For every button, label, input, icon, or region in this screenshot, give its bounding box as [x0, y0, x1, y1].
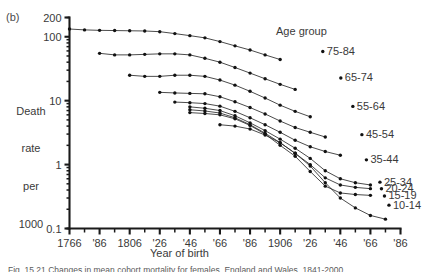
data-point	[203, 57, 206, 60]
data-point	[354, 193, 357, 196]
data-point	[293, 147, 296, 150]
x-tick-label: '66	[213, 237, 227, 249]
series-line-10-14	[220, 125, 386, 219]
data-point	[293, 152, 296, 155]
data-point	[188, 53, 191, 56]
data-point	[158, 52, 161, 55]
x-tick-label: '86	[92, 237, 106, 249]
data-point	[218, 78, 221, 81]
x-tick-label: 1806	[117, 237, 141, 249]
x-tick-label: 1766	[57, 237, 81, 249]
x-tick-label: 1906	[268, 237, 292, 249]
data-point	[233, 66, 236, 69]
y-axis-tick-labels: 0.1110100200	[43, 12, 61, 235]
data-point	[233, 117, 236, 120]
series-label-dot	[339, 76, 342, 79]
data-point	[339, 177, 342, 180]
data-point	[98, 29, 101, 32]
data-point	[354, 206, 357, 209]
series-label-55-64[interactable]: 55-64	[357, 100, 385, 112]
data-point	[278, 103, 281, 106]
data-point	[339, 154, 342, 157]
data-point	[113, 53, 116, 56]
data-point	[293, 88, 296, 91]
data-point	[263, 96, 266, 99]
data-point	[324, 184, 327, 187]
y-tick-label: 200	[43, 12, 61, 24]
data-point	[188, 105, 191, 108]
data-point	[339, 191, 342, 194]
data-point	[293, 110, 296, 113]
data-point	[354, 186, 357, 189]
data-point	[248, 116, 251, 119]
series-label-dot	[387, 203, 390, 206]
data-point	[324, 150, 327, 153]
chart-plot: 0.1110100200 1766'861806'26'46'66'861906…	[0, 0, 425, 272]
x-axis-tick-labels: 1766'861806'26'46'66'861906'26'46'66'86	[57, 237, 407, 249]
data-point	[203, 36, 206, 39]
data-point	[143, 53, 146, 56]
data-point	[309, 131, 312, 134]
series-75-84	[68, 27, 282, 61]
data-point	[218, 123, 221, 126]
data-point	[293, 155, 296, 158]
data-point	[309, 157, 312, 160]
series-label-45-54[interactable]: 45-54	[366, 128, 394, 140]
data-point	[248, 71, 251, 74]
data-point	[203, 112, 206, 115]
data-point	[309, 115, 312, 118]
data-point	[128, 74, 131, 77]
data-point	[324, 181, 327, 184]
x-tick-label: '26	[303, 237, 317, 249]
series-label-10-14[interactable]: 10-14	[393, 199, 421, 211]
data-point	[309, 145, 312, 148]
series-label-35-44[interactable]: 35-44	[370, 153, 398, 165]
x-tick-label: '86	[243, 237, 257, 249]
data-point	[68, 27, 71, 30]
data-point	[263, 133, 266, 136]
data-point	[188, 111, 191, 114]
x-tick-label: '46	[183, 237, 197, 249]
data-point	[218, 95, 221, 98]
data-point	[173, 100, 176, 103]
series-label-dot	[321, 50, 324, 53]
data-point	[158, 30, 161, 33]
data-point	[369, 214, 372, 217]
data-point	[263, 112, 266, 115]
series-line-65-74	[100, 53, 296, 89]
data-point	[173, 74, 176, 77]
data-point	[324, 176, 327, 179]
data-point	[233, 124, 236, 127]
y-tick-label: 1	[55, 159, 61, 171]
data-point	[188, 101, 191, 104]
series-10-14	[218, 123, 387, 221]
data-point	[173, 91, 176, 94]
series-label-65-74[interactable]: 65-74	[345, 71, 373, 83]
data-point	[339, 183, 342, 186]
data-point	[113, 29, 116, 32]
data-point	[158, 91, 161, 94]
data-point	[278, 141, 281, 144]
data-point	[248, 106, 251, 109]
data-point	[233, 100, 236, 103]
data-point	[203, 75, 206, 78]
data-point	[263, 53, 266, 56]
data-point	[143, 29, 146, 32]
data-point	[218, 60, 221, 63]
x-tick-label: '46	[333, 237, 347, 249]
series-label-dot	[351, 105, 354, 108]
series-label-75-84[interactable]: 75-84	[327, 45, 355, 57]
series-label-dot	[360, 133, 363, 136]
data-point	[278, 119, 281, 122]
data-point	[233, 44, 236, 47]
data-point	[83, 28, 86, 31]
data-point	[128, 53, 131, 56]
x-tick-label: '26	[153, 237, 167, 249]
data-point	[369, 194, 372, 197]
data-point	[278, 58, 281, 61]
data-point	[248, 127, 251, 130]
data-point	[188, 34, 191, 37]
data-point	[384, 217, 387, 220]
series-label-dot	[378, 180, 381, 183]
data-point	[143, 75, 146, 78]
